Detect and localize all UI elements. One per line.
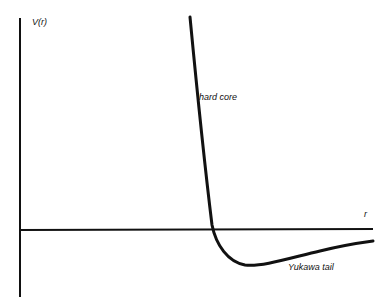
y-axis-label: V(r) — [32, 17, 47, 27]
hard-core-annotation: hard core — [199, 92, 237, 102]
x-axis-label: r — [364, 209, 367, 219]
x-axis — [20, 229, 373, 230]
potential-diagram — [0, 0, 388, 304]
yukawa-tail-annotation: Yukawa tail — [288, 262, 334, 272]
potential-curve — [190, 17, 373, 265]
